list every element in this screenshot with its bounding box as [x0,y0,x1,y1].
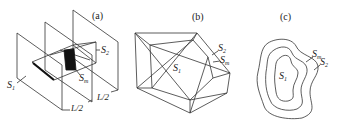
panel-a-tag: (a) [92,11,103,21]
symbol-subscript: m [225,60,229,66]
panel-a-label-s1: S1 [7,80,15,91]
figure: (a) S2 Sm S1 L/2 L/2 (b) S2 Sm S1 (c) Sm… [0,0,344,126]
panel-a-label-sm: Sm [79,73,88,84]
panel-c-label-s1: S1 [279,71,287,82]
panel-c-label-s2: S2 [320,57,328,68]
symbol-subscript: 2 [106,50,109,56]
panel-a-label-s2: S2 [101,45,109,56]
symbol-subscript: 2 [325,62,328,68]
panel-c-drawing [0,0,344,126]
panel-b-tag: (b) [192,12,204,22]
panel-a-dimension-2: L/2 [97,93,109,102]
panel-a-dimension-1: L/2 [71,104,83,113]
symbol-subscript: 1 [12,85,15,91]
panel-b-label-s1: S1 [173,63,181,74]
symbol-subscript: 1 [284,76,287,82]
panel-b-label-s2: S2 [218,43,226,54]
symbol-subscript: m [84,78,88,84]
panel-c-tag: (c) [280,12,291,22]
symbol-subscript: 1 [178,68,181,74]
panel-b-label-sm: Sm [220,55,229,66]
